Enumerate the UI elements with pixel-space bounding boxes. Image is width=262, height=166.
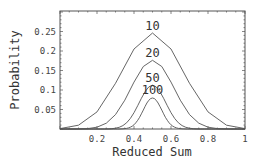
y-tick-label: 0.15 <box>34 66 56 76</box>
x-tick-label: 0.8 <box>200 134 216 144</box>
y-tick-label: 0.1 <box>40 85 56 95</box>
x-axis-label: Reduced Sum <box>112 145 191 159</box>
binomial-chart: 0.20.40.60.810.050.10.150.20.25 10205010… <box>0 0 262 166</box>
y-tick-label: 0.05 <box>34 105 56 115</box>
y-axis-label: Probability <box>8 30 22 109</box>
curve-label: 100 <box>142 83 164 97</box>
x-tick-label: 0.2 <box>89 134 105 144</box>
curve-label: 10 <box>145 19 159 33</box>
x-tick-label: 0.4 <box>126 134 142 144</box>
curve-labels: 102050100 <box>142 19 164 97</box>
curve-label: 20 <box>145 46 159 60</box>
axis-ticks: 0.20.40.60.810.050.10.150.20.25 <box>34 11 247 144</box>
x-tick-label: 1 <box>242 134 247 144</box>
y-tick-label: 0.2 <box>40 46 56 56</box>
x-tick-label: 0.6 <box>163 134 179 144</box>
curve-n-100 <box>60 98 245 129</box>
y-tick-label: 0.25 <box>34 27 56 37</box>
